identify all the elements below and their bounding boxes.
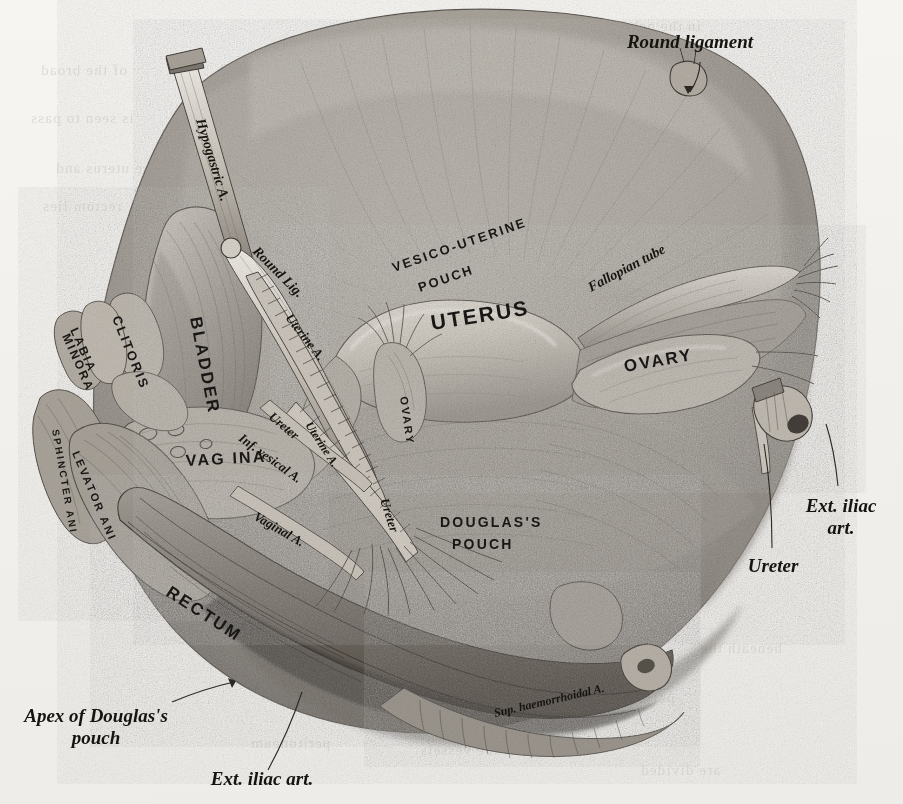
round-ligament: Round ligament [626, 31, 754, 52]
douglas-pouch-2: POUCH [452, 536, 514, 552]
leader-apex-douglas [172, 682, 234, 702]
apex-douglas-pouch-line2: pouch [70, 727, 121, 748]
leader-ext-iliac-right [826, 424, 838, 486]
douglas-pouch-1: DOUGLAS'S [440, 514, 542, 530]
anatomical-plate: in the pelvisof the broadis seen to pass… [0, 0, 903, 804]
apex-douglas-pouch: Apex of Douglas's [23, 705, 168, 726]
ureter-right: Ureter [748, 555, 799, 576]
ext-iliac-art-right: Ext. iliac [805, 495, 877, 516]
ext-iliac-art-bottom: Ext. iliac art. [210, 768, 313, 789]
ext-iliac-art-right-line2: art. [828, 517, 855, 538]
anatomy-figure: UTERUSOVARYOVARYBLADDERVAG INARECTUMCLIT… [0, 0, 903, 804]
